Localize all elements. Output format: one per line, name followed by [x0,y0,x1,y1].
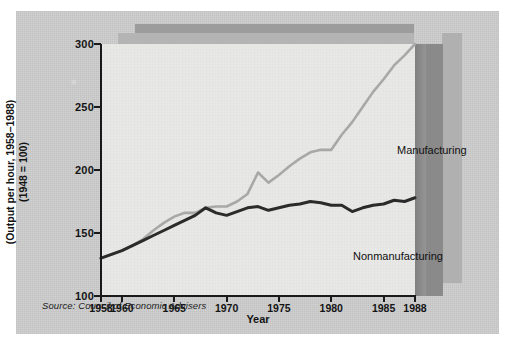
y-axis-title-line1: (Output per hour, 1958–1988) [4,100,17,245]
x-tick [383,295,385,302]
y-tick-label: 250 [75,101,94,113]
3d-top-back-panel [135,24,414,33]
x-tick [414,295,416,302]
3d-right-back-panel [442,33,462,283]
x-tick-label: 1970 [215,302,238,314]
x-tick [330,295,332,302]
y-axis-title: (Output per hour, 1958–1988) (1948 = 100… [4,100,30,245]
x-tick-label: 1980 [320,302,343,314]
plot-area: Manufacturing Nonmanufacturing [101,44,415,296]
y-tick [94,43,101,45]
x-tick-label: 1985 [372,302,395,314]
y-tick [94,232,101,234]
y-tick [94,169,101,171]
x-axis-line [100,295,416,297]
y-tick-label: 200 [75,164,94,176]
y-tick-label: 300 [75,38,94,50]
3d-top-front-panel [118,33,414,44]
chart-figure: Manufacturing Nonmanufacturing 100150200… [0,0,514,345]
series-label-nonmanufacturing: Nonmanufacturing [353,250,443,262]
x-tick-label: 1975 [267,302,290,314]
source-note: Source: Council of Economic Advisers [42,300,206,311]
x-tick [278,295,280,302]
x-tick-label: 1988 [403,302,426,314]
y-axis-title-line2: (1948 = 100) [17,100,30,245]
x-tick [226,295,228,302]
x-axis-title: Year [246,313,269,325]
series-label-manufacturing: Manufacturing [397,144,467,156]
y-tick-label: 150 [75,227,94,239]
line-manufacturing [101,44,415,258]
y-tick [94,106,101,108]
